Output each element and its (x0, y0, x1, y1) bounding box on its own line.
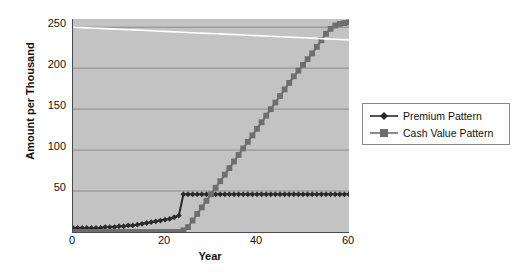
series-marker-1-29 (204, 198, 210, 204)
y-tick-label-100: 100 (32, 140, 66, 152)
series-marker-1-47 (286, 80, 292, 86)
series-marker-1-39 (250, 132, 256, 138)
series-marker-1-44 (273, 100, 279, 106)
series-line-1 (73, 22, 349, 232)
x-tick-label-20: 20 (144, 234, 184, 246)
series-marker-1-42 (263, 113, 269, 119)
x-tick-label-40: 40 (236, 234, 276, 246)
series-marker-1-50 (300, 62, 306, 68)
series-marker-1-26 (190, 218, 196, 224)
series-marker-0-23 (176, 213, 182, 219)
series-marker-1-36 (236, 152, 242, 158)
legend-label-cash-value-pattern: Cash Value Pattern (403, 127, 493, 139)
series-marker-1-53 (314, 44, 320, 50)
series-marker-0-14 (135, 222, 141, 228)
series-marker-0-13 (130, 223, 136, 229)
series-marker-1-40 (254, 126, 260, 132)
chart-legend: Premium Pattern Cash Value Pattern (362, 103, 510, 145)
y-tick-label-250: 250 (32, 17, 66, 29)
series-line-0 (73, 194, 349, 228)
series-marker-1-49 (296, 68, 302, 74)
series-marker-0-16 (144, 220, 150, 226)
plot-area (72, 19, 349, 233)
legend-key-square-icon (369, 127, 399, 139)
series-marker-1-33 (222, 172, 228, 178)
series-marker-1-51 (305, 56, 311, 62)
series-marker-1-34 (227, 165, 233, 171)
series-line-2 (73, 27, 349, 40)
y-tick-label-200: 200 (32, 58, 66, 70)
series-marker-1-45 (277, 93, 283, 99)
legend-item-premium-pattern: Premium Pattern (369, 108, 482, 124)
x-tick-label-60: 60 (328, 234, 368, 246)
legend-key-diamond-icon (369, 110, 399, 122)
series-marker-1-41 (259, 119, 265, 125)
series-marker-1-46 (282, 87, 288, 93)
series-marker-0-60 (346, 191, 349, 197)
series-marker-1-27 (194, 211, 200, 217)
series-marker-0-22 (171, 214, 177, 220)
series-marker-0-19 (158, 218, 164, 224)
series-marker-1-37 (240, 146, 246, 152)
chart-figure: Amount per Thousand Year 250 200 150 100… (0, 0, 528, 277)
series-marker-0-17 (148, 219, 154, 225)
plot-canvas (73, 19, 349, 232)
series-marker-0-18 (153, 218, 159, 224)
series-marker-1-25 (185, 224, 191, 230)
x-tick-label-0: 0 (52, 234, 92, 246)
series-marker-1-32 (217, 178, 223, 184)
y-tick-label-150: 150 (32, 99, 66, 111)
series-marker-0-20 (162, 217, 168, 223)
y-tick-label-50: 50 (32, 181, 66, 193)
series-marker-1-43 (268, 106, 274, 112)
series-marker-1-28 (199, 205, 205, 211)
series-marker-1-30 (208, 191, 214, 197)
series-marker-1-48 (291, 73, 297, 79)
series-marker-0-15 (139, 221, 145, 227)
series-marker-1-52 (309, 51, 315, 57)
series-marker-1-31 (213, 185, 219, 191)
series-marker-1-38 (245, 139, 251, 145)
legend-item-cash-value-pattern: Cash Value Pattern (369, 125, 493, 141)
legend-label-premium-pattern: Premium Pattern (403, 110, 482, 122)
x-axis-title: Year (72, 250, 348, 262)
series-marker-1-35 (231, 159, 237, 165)
series-marker-0-11 (121, 223, 127, 229)
series-marker-1-60 (346, 19, 349, 25)
series-marker-0-21 (167, 216, 173, 222)
